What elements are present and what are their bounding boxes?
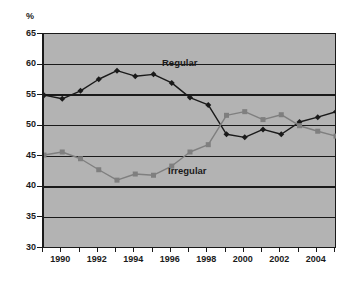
- x-tick-mark: [42, 247, 43, 252]
- chart-figure: % 6560555045403530 199019921994199619982…: [0, 0, 344, 283]
- x-tick-label: 1998: [186, 254, 226, 264]
- x-tick-mark: [115, 247, 116, 252]
- x-tick-label: 1994: [113, 254, 153, 264]
- x-tick-mark: [243, 247, 244, 252]
- x-tick-mark: [316, 247, 317, 252]
- x-tick-mark: [298, 247, 299, 252]
- x-tick-label: 2000: [223, 254, 263, 264]
- x-tick-label: 2004: [296, 254, 336, 264]
- x-tick-mark: [133, 247, 134, 252]
- x-tick-label: 2002: [259, 254, 299, 264]
- x-tick-mark: [261, 247, 262, 252]
- x-tick-mark: [188, 247, 189, 252]
- x-tick-mark: [225, 247, 226, 252]
- x-tick-mark: [97, 247, 98, 252]
- series-label-irregular: Irregular: [168, 165, 207, 176]
- x-tick-mark: [206, 247, 207, 252]
- x-tick-mark: [334, 247, 335, 252]
- x-tick-mark: [79, 247, 80, 252]
- x-axis-tick-labels: 19901992199419961998200020022004: [0, 0, 344, 283]
- x-tick-label: 1992: [77, 254, 117, 264]
- x-tick-mark: [152, 247, 153, 252]
- series-label-regular: Regular: [162, 57, 197, 68]
- x-tick-mark: [170, 247, 171, 252]
- x-tick-mark: [60, 247, 61, 252]
- x-tick-mark: [279, 247, 280, 252]
- x-tick-label: 1996: [150, 254, 190, 264]
- x-tick-label: 1990: [40, 254, 80, 264]
